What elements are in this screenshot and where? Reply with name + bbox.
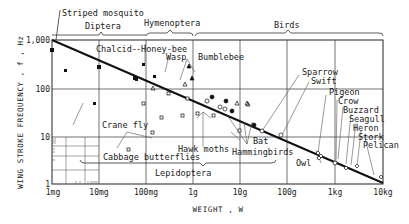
label-hammingbirds: Hammingbirds: [232, 147, 293, 157]
label-bumblebee: Bumblebee: [198, 52, 244, 62]
x-tick-10mg: 10mg: [89, 188, 108, 197]
markers-diamond: [316, 151, 383, 179]
y-tick-10: 10: [40, 133, 50, 142]
label-owl: Owl: [296, 158, 311, 168]
markers-filled-square: [50, 48, 156, 105]
x-tick-1mg: 1mg: [46, 188, 61, 197]
x-tick-1kg: 1kg: [328, 188, 343, 197]
label-hymenoptera: Hymenoptera: [144, 18, 200, 28]
y-tick-100: 100: [36, 85, 51, 94]
x-tick-10g: 10g: [233, 188, 248, 197]
x-tick-10kg: 10kg: [373, 188, 392, 197]
label-birds: Birds: [274, 20, 300, 30]
inset-grid: [52, 137, 99, 184]
label-chalcid: Chalcid-: [96, 44, 137, 54]
x-tick-1g: 1g: [188, 188, 198, 197]
label-striped-mosquito: Striped mosquito: [62, 8, 144, 18]
label-lepidoptera: Lepidoptera: [155, 168, 211, 178]
label-hawk-moths: Hawk moths: [178, 144, 229, 154]
markers-triangle: [151, 64, 250, 106]
label-pelican: Pelican: [363, 140, 399, 150]
label-bat: Bat: [253, 136, 268, 146]
x-axis-title: WEIGHT , W: [192, 205, 243, 214]
label-wasp: Wasp: [166, 52, 186, 62]
label-diptera: Diptera: [85, 21, 121, 31]
x-tick-100mg: 100mg: [134, 188, 158, 197]
label-swift: Swift: [311, 76, 337, 86]
y-axis-title: WING STROKE FREQUENCY , f , Hz: [16, 35, 25, 188]
y-tick-1000: 1,000: [26, 36, 50, 45]
label-crane-fly: Crane fly: [102, 120, 148, 130]
x-tick-100g: 100g: [277, 188, 296, 197]
wing-frequency-chart: 1,000 100 10 1 1mg 10mg 100mg 1g 10g 100…: [0, 0, 409, 224]
